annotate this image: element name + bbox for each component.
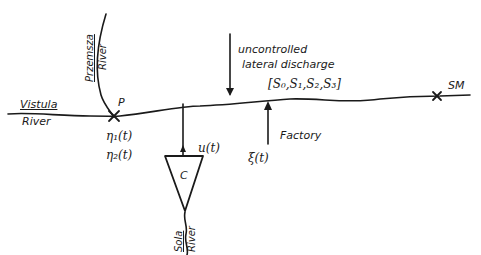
- sola-river-label: River: [186, 226, 198, 252]
- factory-label: Factory: [280, 130, 321, 142]
- vistula-river-line: [8, 95, 470, 116]
- disturbance-xi-label: ξ(t): [248, 152, 269, 164]
- parameters-label: [S₀,S₁,S₂,S₃]: [268, 78, 341, 90]
- control-u-label: u(t): [198, 142, 220, 154]
- vistula-label: Vistula: [20, 99, 57, 111]
- discharge-arrowhead: [226, 88, 234, 96]
- river-system-diagram: Vistula River Przemsza River P SM η₁(t) …: [0, 0, 481, 255]
- reservoir-triangle: [165, 156, 203, 211]
- reservoir-label: C: [180, 170, 188, 182]
- vistula-river-label: River: [22, 116, 51, 128]
- outflow-arrowhead: [180, 145, 186, 152]
- eta2-label: η₂(t): [106, 149, 132, 161]
- factory-arrowhead: [264, 101, 272, 110]
- sola-label: Sola: [173, 231, 185, 252]
- discharge-label-line2: lateral discharge: [242, 59, 335, 71]
- point-p-label: P: [118, 97, 125, 109]
- point-sm-label: SM: [448, 80, 464, 92]
- discharge-label-line1: uncontrolled: [238, 44, 307, 56]
- przemsza-river-label: River: [97, 44, 109, 70]
- przemsza-label: Przemsza: [84, 34, 96, 82]
- eta1-label: η₁(t): [106, 130, 132, 142]
- diagram-lines: [0, 0, 481, 255]
